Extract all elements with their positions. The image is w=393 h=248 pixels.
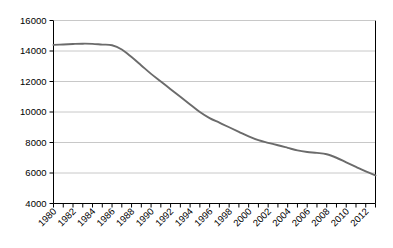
- y-tick-label-4000: 4000: [25, 198, 46, 209]
- y-tick-label-8000: 8000: [25, 137, 46, 148]
- y-tick-label-6000: 6000: [25, 167, 46, 178]
- y-tick-label-14000: 14000: [20, 45, 46, 56]
- line-chart: 40006000800010000120001400016000 1980198…: [0, 0, 393, 248]
- y-tick-label-12000: 12000: [20, 76, 46, 87]
- chart-canvas: 40006000800010000120001400016000 1980198…: [0, 0, 393, 248]
- y-tick-label-16000: 16000: [20, 15, 46, 26]
- y-tick-label-10000: 10000: [20, 106, 46, 117]
- chart-background: [0, 0, 393, 248]
